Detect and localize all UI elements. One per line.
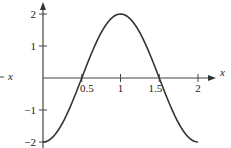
y-tick-label: 2 xyxy=(31,8,37,20)
x-axis-arrow-icon xyxy=(208,75,216,81)
x-axis: x 0.511.52 xyxy=(43,66,225,94)
y-tick-label: 1 xyxy=(31,40,37,52)
y-axis-arrow-icon xyxy=(40,2,46,10)
y-tick-label: −2 xyxy=(24,136,36,148)
x-tick-label: 1.5 xyxy=(148,82,162,94)
left-axis-label: x xyxy=(7,70,13,82)
x-tick-label: 2 xyxy=(195,82,201,94)
x-axis-label: x xyxy=(219,66,225,78)
y-tick-label: −1 xyxy=(24,104,36,116)
x-tick-label: 1 xyxy=(118,82,124,94)
y-axis: −2−112 xyxy=(24,2,47,148)
line-chart: x −2−112 x 0.511.52 xyxy=(0,0,231,148)
x-tick-label: 0.5 xyxy=(80,82,94,94)
left-x-label-group: x xyxy=(0,70,13,82)
